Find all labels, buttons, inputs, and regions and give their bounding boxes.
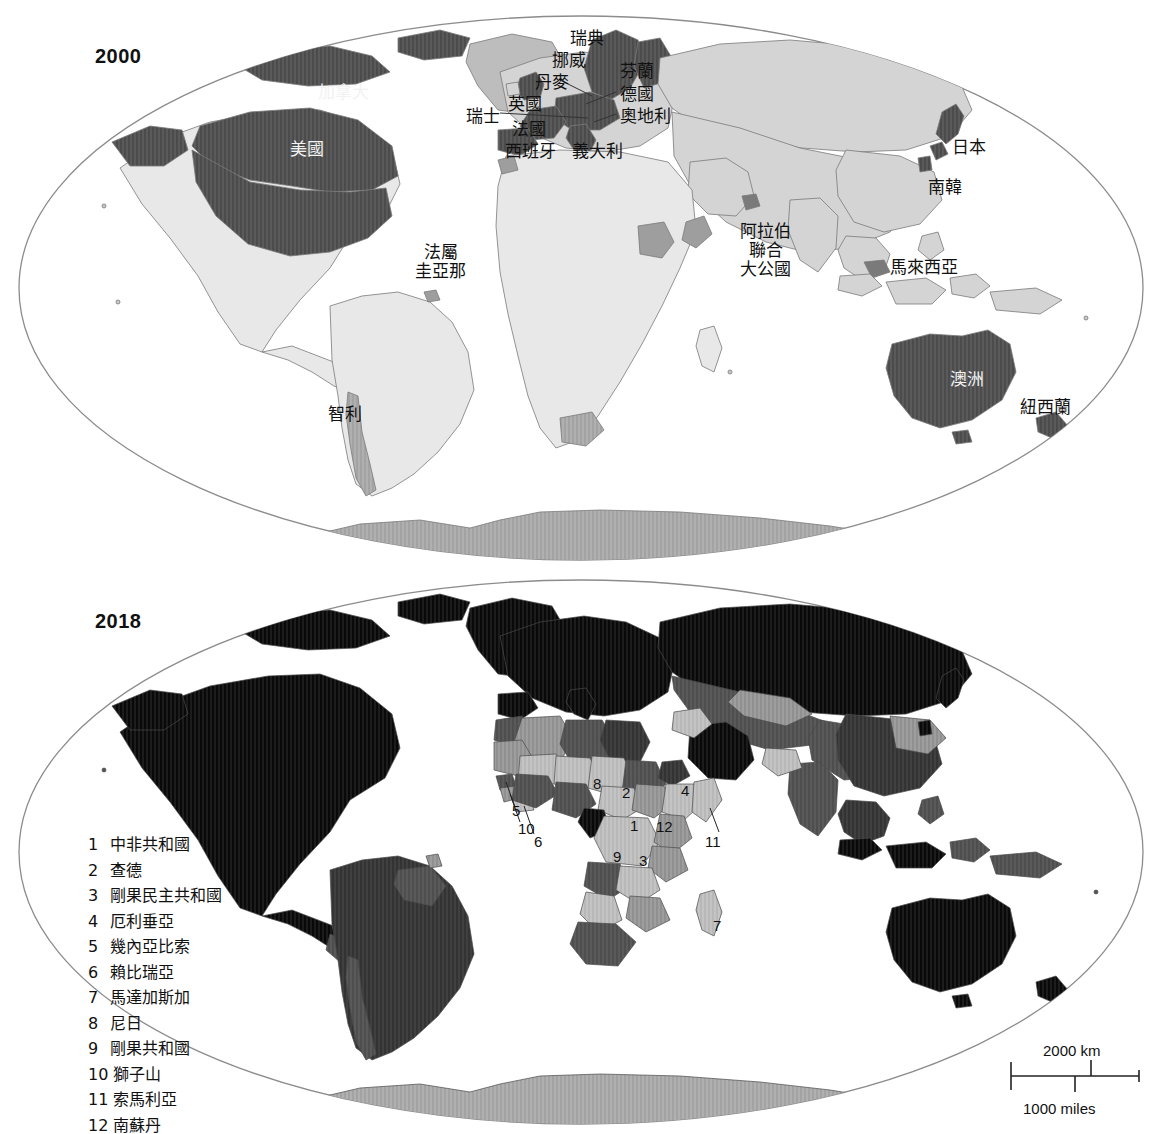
country-number-marker: 2 [622, 784, 630, 801]
country-label-line: 大公國 [740, 260, 791, 279]
country-label: 芬蘭 [620, 62, 654, 81]
region-egypt-2018 [600, 720, 650, 762]
legend-item-name: 索馬利亞 [113, 1090, 177, 1109]
legend-item-name: 幾內亞比索 [110, 937, 190, 956]
legend-item-name: 南蘇丹 [113, 1116, 161, 1134]
legend-item: 2 查德 [88, 858, 222, 884]
island-dot [728, 370, 732, 374]
country-number-marker: 11 [705, 833, 721, 850]
legend-item-number: 11 [88, 1087, 108, 1113]
island-dot [116, 300, 120, 304]
country-label: 南韓 [928, 178, 962, 197]
island-dot [102, 204, 106, 208]
legend-item: 4 厄利垂亞 [88, 909, 222, 935]
country-number-marker: 12 [656, 818, 673, 835]
country-label: 日本 [952, 138, 986, 157]
legend-item-name: 查德 [110, 861, 142, 880]
country-number-marker: 7 [713, 917, 721, 934]
legend-item: 10 獅子山 [88, 1062, 222, 1088]
country-number-marker: 1 [630, 817, 638, 834]
region-south-korea [918, 156, 932, 172]
legend-item: 6 賴比瑞亞 [88, 960, 222, 986]
country-label: 瑞典 [570, 29, 604, 48]
country-label: 德國 [620, 85, 654, 104]
country-label: 英國 [508, 95, 542, 114]
country-label: 挪威 [552, 51, 586, 70]
region-tasmania-2018 [952, 994, 972, 1008]
country-label: 法國 [512, 120, 546, 139]
legend-item-name: 厄利垂亞 [110, 912, 174, 931]
legend-item: 8 尼日 [88, 1011, 222, 1037]
legend-item-number: 7 [88, 985, 105, 1011]
legend-item: 3 剛果民主共和國 [88, 883, 222, 909]
map-panel-2000: 2000 [0, 0, 1163, 570]
legend-item-name: 馬達加斯加 [110, 988, 190, 1007]
country-label-stacked: 阿拉伯聯合大公國 [740, 222, 791, 279]
island-dot [1094, 890, 1098, 894]
country-label: 智利 [328, 405, 362, 424]
legend-item: 7 馬達加斯加 [88, 985, 222, 1011]
map-panel-2018: 2018 [0, 570, 1163, 1134]
region-new-zealand-south [1060, 432, 1094, 458]
scale-miles-label: 1000 miles [1023, 1100, 1096, 1117]
legend-item-number: 5 [88, 934, 105, 960]
country-number-marker: 10 [518, 820, 535, 837]
country-label: 奧地利 [620, 107, 671, 126]
legend-item: 5 幾內亞比索 [88, 934, 222, 960]
country-label: 加拿大 [318, 83, 369, 102]
legend-item-name: 剛果共和國 [110, 1039, 190, 1058]
region-nz-south-2018 [1060, 996, 1094, 1022]
legend-item-number: 4 [88, 909, 105, 935]
legend-item: 1 中非共和國 [88, 832, 222, 858]
legend-item: 9 剛果共和國 [88, 1036, 222, 1062]
country-number-marker: 8 [593, 775, 601, 792]
legend-item-number: 1 [88, 832, 105, 858]
scale-bar: 2000 km 1000 miles [1005, 1042, 1150, 1122]
legend-item-number: 10 [88, 1062, 108, 1088]
region-tasmania [952, 430, 972, 444]
country-label: 西班牙 [505, 142, 556, 161]
legend-item-number: 12 [88, 1113, 108, 1134]
country-label: 馬來西亞 [890, 258, 958, 277]
country-number-legend: 1 中非共和國2 查德3 剛果民主共和國4 厄利垂亞5 幾內亞比索6 賴比瑞亞7… [88, 832, 222, 1134]
legend-item-name: 剛果民主共和國 [110, 886, 222, 905]
region-korea-2018 [918, 720, 932, 736]
country-number-marker: 6 [534, 833, 542, 850]
country-label: 丹麥 [535, 73, 569, 92]
world-map-2000 [0, 0, 1163, 570]
legend-item-number: 8 [88, 1011, 105, 1037]
country-label-stacked: 法屬圭亞那 [415, 243, 466, 281]
legend-item: 12 南蘇丹 [88, 1113, 222, 1134]
legend-item-name: 中非共和國 [110, 835, 190, 854]
country-label: 紐西蘭 [1020, 398, 1071, 417]
legend-item-name: 尼日 [110, 1014, 142, 1033]
country-label-line: 聯合 [740, 241, 791, 260]
legend-item-number: 6 [88, 960, 105, 986]
legend-item-number: 9 [88, 1036, 105, 1062]
country-label-line: 法屬 [415, 243, 466, 262]
legend-item-name: 獅子山 [113, 1065, 161, 1084]
legend-item-number: 2 [88, 858, 105, 884]
scale-km-label: 2000 km [1043, 1042, 1101, 1059]
country-label-line: 圭亞那 [415, 262, 466, 281]
legend-item-name: 賴比瑞亞 [110, 963, 174, 982]
country-number-marker: 3 [639, 852, 647, 869]
scale-bar-graphic [1005, 1060, 1150, 1100]
country-label: 澳洲 [950, 370, 984, 389]
country-number-marker: 5 [512, 802, 520, 819]
legend-item: 11 索馬利亞 [88, 1087, 222, 1113]
country-number-marker: 4 [681, 782, 689, 799]
island-dot [1084, 316, 1088, 320]
country-label: 義大利 [572, 142, 623, 161]
island-dot [102, 768, 106, 772]
country-label-line: 阿拉伯 [740, 222, 791, 241]
country-label: 瑞士 [466, 107, 500, 126]
legend-item-number: 3 [88, 883, 105, 909]
country-number-marker: 9 [613, 848, 621, 865]
country-label: 美國 [290, 140, 324, 159]
